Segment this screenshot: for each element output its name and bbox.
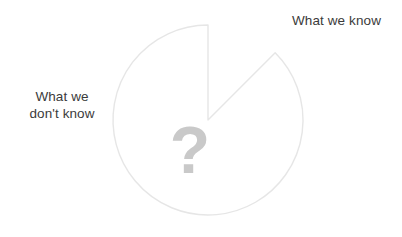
slice-label-line-2: don't know: [29, 106, 94, 121]
slice-label-what-we-dont-know: What wedon't know: [16, 88, 108, 122]
question-mark-annotation: ?: [157, 117, 223, 183]
slice-label-line-1: What we: [35, 89, 88, 104]
pie-chart-figure: What we know What wedon't know ?: [0, 0, 402, 237]
slice-label-what-we-know: What we know: [292, 12, 381, 29]
